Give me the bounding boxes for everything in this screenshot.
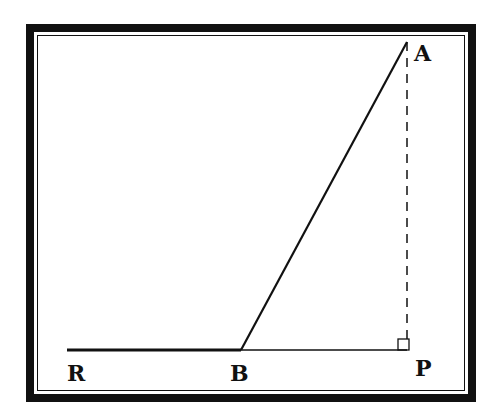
label-P: P [415,357,432,379]
label-B: B [230,362,249,384]
label-R: R [67,362,85,384]
right-angle-marker [398,339,409,350]
label-A: A [414,42,431,64]
segment-BA [241,42,407,350]
